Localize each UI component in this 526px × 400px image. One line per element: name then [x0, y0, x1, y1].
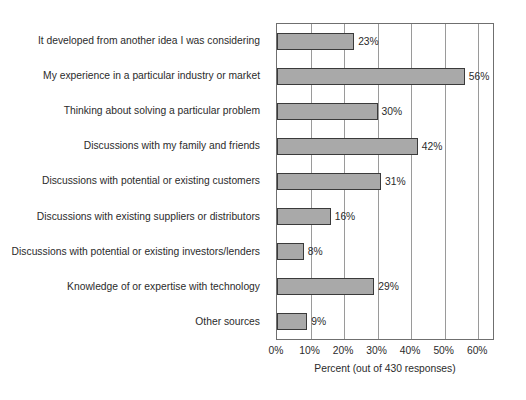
bar[interactable] [277, 243, 304, 260]
category-label-row: Discussions with potential or existing c… [0, 164, 268, 199]
bar-value-label: 23% [358, 36, 379, 48]
category-label-row: Knowledge of or expertise with technolog… [0, 270, 268, 305]
bar-row: 31% [277, 164, 493, 199]
bar-series: 23% 56% 30% 42% 31% 16% [277, 24, 493, 339]
bar[interactable] [277, 278, 374, 295]
x-axis-tick-labels: 0%10%20%30%40%50%60% [276, 344, 494, 358]
bar[interactable] [277, 68, 465, 85]
bar-value-label: 31% [385, 176, 406, 188]
category-label: Thinking about solving a particular prob… [64, 105, 260, 117]
bar-value-label: 8% [308, 246, 323, 258]
bar-row: 16% [277, 199, 493, 234]
bar-row: 9% [277, 304, 493, 339]
category-label: Discussions with potential or existing i… [12, 246, 260, 258]
category-label: It developed from another idea I was con… [38, 35, 260, 47]
bar[interactable] [277, 173, 381, 190]
x-axis-tick-label: 20% [333, 344, 354, 358]
bar-value-label: 9% [311, 316, 326, 328]
x-axis-tick-label: 50% [433, 344, 454, 358]
bar-row: 29% [277, 269, 493, 304]
x-axis-tick-label: 40% [400, 344, 421, 358]
x-axis-tick-label: 10% [299, 344, 320, 358]
bar-value-label: 42% [422, 141, 443, 153]
bar[interactable] [277, 33, 354, 50]
x-axis-title: Percent (out of 430 responses) [276, 362, 494, 375]
category-label-row: Discussions with existing suppliers or d… [0, 199, 268, 234]
bar-row: 56% [277, 59, 493, 94]
bar[interactable] [277, 313, 307, 330]
x-axis-tick-label: 30% [366, 344, 387, 358]
category-label-row: My experience in a particular industry o… [0, 58, 268, 93]
bar-value-label: 56% [469, 71, 490, 83]
bar-value-label: 30% [382, 106, 403, 118]
category-label-row: Thinking about solving a particular prob… [0, 93, 268, 128]
x-axis-tick-label: 0% [269, 344, 284, 358]
category-label-row: Other sources [0, 305, 268, 340]
category-label-row: It developed from another idea I was con… [0, 23, 268, 58]
category-axis-labels: It developed from another idea I was con… [0, 23, 268, 340]
category-label-row: Discussions with potential or existing i… [0, 234, 268, 269]
plot-area: 23% 56% 30% 42% 31% 16% [276, 23, 494, 340]
bar-row: 42% [277, 129, 493, 164]
bar-row: 8% [277, 234, 493, 269]
category-label: Discussions with my family and friends [84, 140, 260, 152]
bar-value-label: 29% [378, 281, 399, 293]
bar[interactable] [277, 138, 418, 155]
bar[interactable] [277, 208, 331, 225]
bar-row: 23% [277, 24, 493, 59]
category-label: Knowledge of or expertise with technolog… [67, 281, 260, 293]
bar-row: 30% [277, 94, 493, 129]
category-label-row: Discussions with my family and friends [0, 129, 268, 164]
bar[interactable] [277, 103, 378, 120]
x-axis-tick-label: 60% [467, 344, 488, 358]
bar-chart: It developed from another idea I was con… [0, 0, 526, 400]
category-label: My experience in a particular industry o… [43, 70, 260, 82]
category-label: Discussions with existing suppliers or d… [37, 211, 260, 223]
bar-value-label: 16% [335, 211, 356, 223]
category-label: Discussions with potential or existing c… [42, 175, 260, 187]
category-label: Other sources [195, 316, 260, 328]
